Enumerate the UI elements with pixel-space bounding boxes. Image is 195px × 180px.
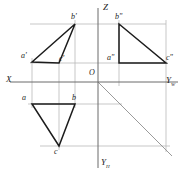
axis-label-z: Z <box>103 3 108 12</box>
projection-canvas <box>0 0 195 180</box>
vertex-label-c-top: c <box>54 148 58 156</box>
axis-label-yh-subscript: H <box>106 164 110 169</box>
vertex-label-b-front: b' <box>71 13 77 21</box>
axis-label-x: X <box>6 75 12 84</box>
axis-label-yw: YW <box>166 76 175 87</box>
axis-label-yh: YH <box>101 158 110 169</box>
vertex-label-c-front: c' <box>59 55 64 63</box>
origin-label: O <box>89 69 95 77</box>
axis-label-yw-subscript: W <box>171 82 175 87</box>
axis-lines <box>10 8 178 168</box>
vertex-label-b-side: b" <box>115 13 122 21</box>
vertex-label-c-side: c" <box>166 54 173 62</box>
top-view-triangle <box>32 104 75 146</box>
side-view-triangle <box>119 24 166 63</box>
vertex-label-a-top: a <box>22 94 26 102</box>
vertex-label-a-front: a' <box>21 52 27 60</box>
vertex-label-b-top: b <box>72 94 76 102</box>
front-view-triangle <box>32 24 75 63</box>
vertex-label-a-side: a" <box>107 54 114 62</box>
forty-five-degree-bisector <box>98 82 172 156</box>
projection-diagram: X Z YW YH O a' b' c' a" b" c" a b c <box>0 0 195 180</box>
